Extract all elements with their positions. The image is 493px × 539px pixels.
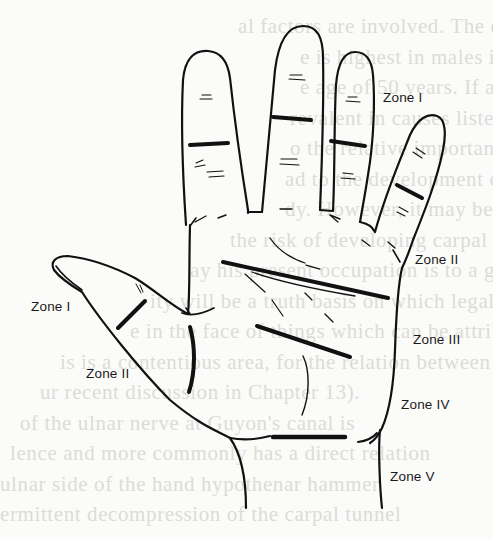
hand-diagram — [0, 0, 493, 539]
zone-label-iv: Zone IV — [401, 397, 450, 412]
zone-label-i-thumb: Zone I — [31, 299, 70, 314]
palm-lines — [195, 209, 395, 437]
zone-label-ii-fingers: Zone II — [415, 252, 458, 267]
zone-boundary-mid-palm — [257, 326, 350, 357]
zone-label-ii-thumb: Zone II — [86, 366, 129, 381]
wrist-left-border — [230, 436, 270, 508]
ring-finger — [320, 52, 374, 222]
middle-finger — [248, 26, 323, 212]
zone-label-i-fingers: Zone I — [383, 90, 422, 105]
thumb — [53, 218, 230, 438]
crease-dash — [195, 216, 206, 222]
zone-boundary-thumb-base — [189, 327, 194, 392]
zone-label-iii: Zone III — [413, 332, 460, 347]
zone-label-v: Zone V — [390, 469, 435, 484]
zone-boundary-distal-palm — [223, 262, 388, 298]
index-finger — [182, 51, 248, 225]
